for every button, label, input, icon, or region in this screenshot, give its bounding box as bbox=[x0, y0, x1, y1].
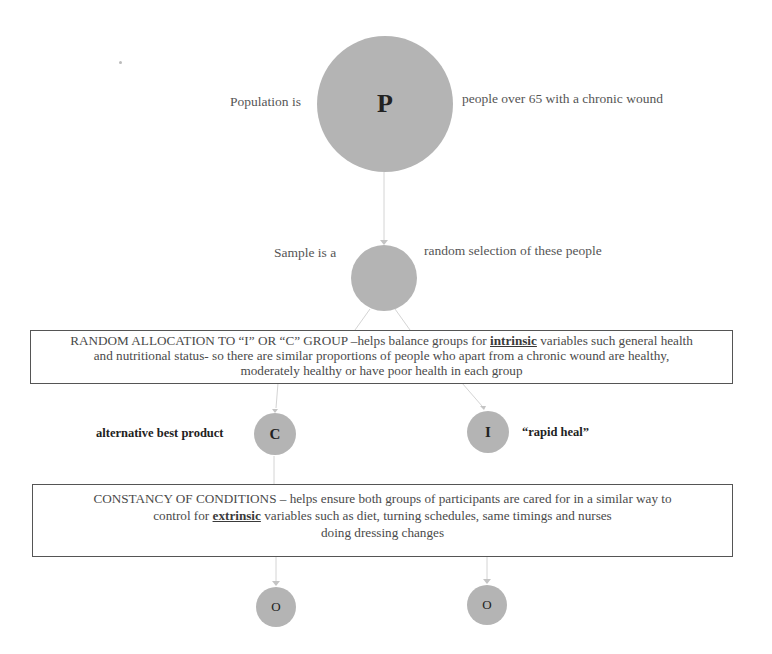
intervention-letter: I bbox=[485, 424, 491, 441]
sample-label-left: Sample is a bbox=[274, 245, 336, 261]
random-allocation-line-2: and nutritional status- so there are sim… bbox=[35, 348, 728, 363]
random-allocation-box: RANDOM ALLOCATION TO “I” OR “C” GROUP –h… bbox=[30, 330, 733, 384]
constancy-line-3: doing dressing changes bbox=[37, 524, 728, 541]
arrowhead-i bbox=[480, 406, 486, 410]
text-span: variables such general health bbox=[537, 333, 693, 348]
constancy-line-1: CONSTANCY OF CONDITIONS – helps ensure b… bbox=[37, 490, 728, 507]
sample-node bbox=[351, 245, 417, 311]
outcome-control-node: O bbox=[256, 587, 296, 627]
outcome-intervention-node: O bbox=[467, 585, 507, 625]
population-letter: P bbox=[377, 89, 393, 119]
sample-label-right: random selection of these people bbox=[424, 243, 602, 259]
random-allocation-line-3: moderately healthy or have poor health i… bbox=[35, 363, 728, 378]
arrowhead-oi bbox=[483, 579, 491, 584]
arrowhead-oc bbox=[272, 581, 280, 586]
random-allocation-line-1: RANDOM ALLOCATION TO “I” OR “C” GROUP –h… bbox=[35, 333, 728, 348]
text-span: control for bbox=[153, 508, 212, 523]
control-label: alternative best product bbox=[96, 426, 224, 441]
control-node: C bbox=[254, 413, 296, 455]
connector-box-to-i bbox=[462, 383, 482, 406]
connector-sample-to-box bbox=[355, 309, 370, 330]
constancy-line-2: control for extrinsic variables such as … bbox=[37, 507, 728, 524]
population-label-left: Population is bbox=[230, 94, 301, 110]
extrinsic-keyword: extrinsic bbox=[213, 508, 261, 523]
text-span: variables such as diet, turning schedule… bbox=[261, 508, 612, 523]
population-label-right: people over 65 with a chronic wound bbox=[462, 91, 663, 107]
intervention-label: “rapid heal” bbox=[522, 425, 589, 440]
outcome-control-letter: O bbox=[271, 599, 280, 615]
intervention-node: I bbox=[467, 411, 509, 453]
control-letter: C bbox=[270, 426, 281, 443]
constancy-box: CONSTANCY OF CONDITIONS – helps ensure b… bbox=[32, 484, 733, 557]
population-node: P bbox=[317, 36, 453, 172]
outcome-intervention-letter: O bbox=[482, 597, 491, 613]
connector-sample-to-box-2 bbox=[395, 309, 410, 330]
text-span: RANDOM ALLOCATION TO “I” OR “C” GROUP –h… bbox=[70, 333, 490, 348]
intrinsic-keyword: intrinsic bbox=[490, 333, 537, 348]
connector-box-to-c bbox=[276, 383, 278, 408]
